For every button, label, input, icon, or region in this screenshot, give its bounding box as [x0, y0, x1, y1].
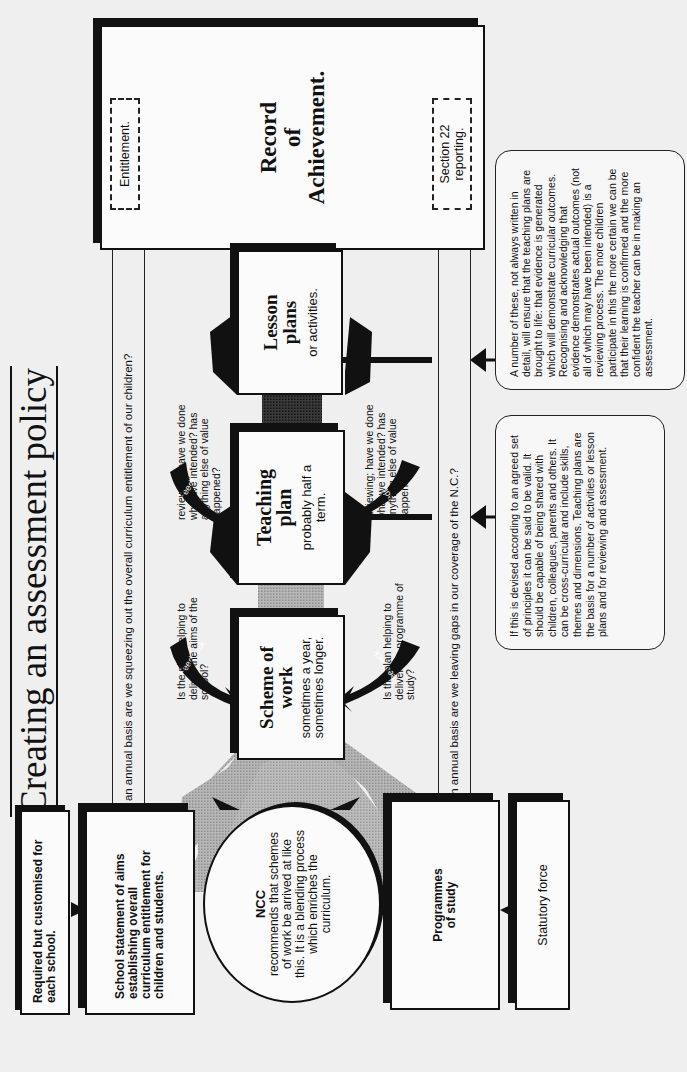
statutory-force-box: Statutory force — [515, 800, 570, 1010]
record-title-line: Record — [257, 71, 281, 205]
ncc-heading: NCC — [253, 890, 268, 918]
feedback-band-top: Feedback: on an annual basis are we sque… — [112, 248, 145, 880]
entitlement-label: Entitlement. — [110, 98, 140, 210]
note-arrow-lesson — [470, 348, 486, 372]
teaching-plan-subtitle: probably half a term. — [300, 453, 328, 563]
lesson-plans-box: Lesson plans or activities. — [237, 250, 343, 395]
school-statement-box: School statement of aims establishing ov… — [85, 810, 195, 1015]
ncc-circle: NCC recommends that schemes of work be a… — [215, 818, 370, 990]
record-title-line: Achievement. — [305, 71, 329, 205]
scheme-of-work-subtitle: sometimes a year, sometimes longer. — [300, 630, 326, 745]
teaching-question-top: Is the plan helping to deliver the aims … — [176, 575, 211, 700]
feedback-text-top: Feedback: on an annual basis are we sque… — [122, 354, 134, 874]
teaching-plan-title: Teaching plan — [254, 463, 294, 553]
record-title-line: of — [281, 71, 305, 205]
record-title: Record of Achievement. — [257, 71, 329, 205]
diagram-canvas: Feedback Feedback Feedback Feedback Crea… — [0, 0, 687, 1072]
ncc-body: recommends that schemes of work be arriv… — [268, 829, 333, 979]
feedback-band-bottom: Feedback: on an annual basis are we leav… — [438, 248, 471, 880]
lesson-question-bottom: reviewing; have we done what we intended… — [364, 380, 410, 520]
note-arrow-teaching — [470, 505, 486, 529]
teaching-note-box: If this is devised according to an agree… — [495, 415, 665, 650]
scheme-of-work-box: Scheme of work sometimes a year, sometim… — [237, 615, 345, 760]
lesson-note-box: A number of these, not always written in… — [495, 150, 685, 390]
scheme-of-work-title: Scheme of work — [257, 633, 295, 743]
teaching-question-bottom: Is the plan helping to deliver the progr… — [382, 575, 417, 700]
lesson-question-top: reviewing; have we done what we intended… — [176, 380, 222, 520]
lesson-plans-subtitle: or activities. — [305, 288, 320, 357]
record-of-achievement-box: Record of Achievement. — [100, 25, 485, 250]
lesson-plans-title: Lesson plans — [261, 288, 299, 358]
required-box: Required but customised for each school. — [20, 810, 70, 1015]
programmes-of-study-box: Programmes of study — [390, 800, 500, 1010]
teaching-plan-box: Teaching plan probably half a term. — [237, 430, 345, 585]
page-title: Creating an assessment policy — [10, 366, 58, 817]
section22-label: Section 22 reporting. — [432, 98, 472, 210]
